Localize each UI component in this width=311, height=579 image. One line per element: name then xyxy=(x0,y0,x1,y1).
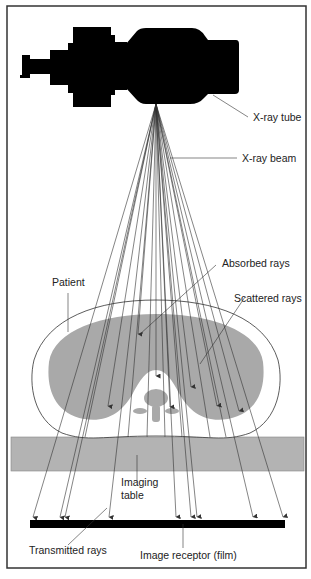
label-patient: Patient xyxy=(52,276,85,288)
label-absorbed-rays: Absorbed rays xyxy=(222,257,290,269)
label-xray-tube: X-ray tube xyxy=(253,111,302,123)
xray-diagram: X-ray tube X-ray beam Absorbed rays Pati… xyxy=(0,0,311,579)
label-imaging-table-1: Imaging xyxy=(121,476,159,488)
label-transmitted-rays: Transmitted rays xyxy=(29,544,107,556)
label-xray-beam: X-ray beam xyxy=(242,152,297,164)
image-receptor-film xyxy=(30,520,285,528)
label-imaging-table-2: table xyxy=(121,489,144,501)
label-image-receptor: Image receptor (film) xyxy=(140,549,237,561)
label-scattered-rays: Scattered rays xyxy=(234,292,302,304)
